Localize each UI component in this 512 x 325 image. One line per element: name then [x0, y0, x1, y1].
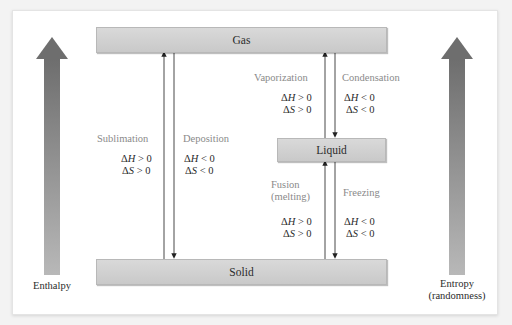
fusion-label-line2: (melting) — [271, 191, 310, 203]
gas-state-bar: Gas — [96, 27, 387, 53]
deposition-dh: ΔH < 0 — [184, 153, 215, 165]
liquid-label: Liquid — [316, 144, 347, 156]
deposition-label: Deposition — [183, 133, 229, 145]
fusion-ds: ΔS > 0 — [283, 228, 311, 240]
solid-state-bar: Solid — [96, 259, 387, 285]
gas-label: Gas — [233, 34, 251, 46]
deposition-ds: ΔS < 0 — [185, 165, 213, 177]
vaporization-label: Vaporization — [254, 72, 308, 84]
vaporization-dh: ΔH > 0 — [281, 92, 312, 104]
freezing-ds: ΔS < 0 — [346, 228, 374, 240]
freezing-dh: ΔH < 0 — [344, 216, 375, 228]
condensation-label: Condensation — [342, 72, 400, 84]
liquid-state-bar: Liquid — [277, 138, 386, 162]
sublimation-label: Sublimation — [97, 133, 148, 145]
condensation-dh: ΔH < 0 — [344, 92, 375, 104]
vaporization-ds: ΔS > 0 — [283, 104, 311, 116]
sublimation-dh: ΔH > 0 — [121, 153, 152, 165]
fusion-label: Fusion (melting) — [271, 179, 310, 203]
sublimation-ds: ΔS > 0 — [122, 165, 150, 177]
condensation-ds: ΔS < 0 — [346, 104, 374, 116]
freezing-label: Freezing — [343, 187, 380, 199]
fusion-dh: ΔH > 0 — [281, 216, 312, 228]
fusion-label-line1: Fusion — [271, 179, 310, 191]
solid-label: Solid — [229, 266, 253, 278]
